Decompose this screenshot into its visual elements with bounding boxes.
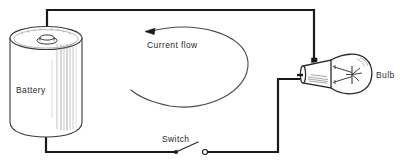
wire-group	[46, 10, 314, 152]
bulb-component	[297, 54, 372, 94]
battery-label: Battery	[16, 85, 46, 95]
battery-terminal-cap	[40, 35, 54, 40]
wire-battery-to-bulb-top	[47, 10, 314, 58]
bulb-top-contact-tab	[312, 58, 318, 63]
wire-switch-to-bulb-base	[205, 79, 300, 152]
switch-right-contact	[203, 150, 208, 155]
circuit-diagram: Switch	[0, 0, 400, 165]
current-flow-label: Current flow	[147, 40, 198, 50]
switch-label: Switch	[162, 134, 189, 144]
current-flow-arrowhead	[145, 28, 155, 34]
battery-component	[10, 27, 82, 138]
bulb-glass-envelope	[328, 54, 372, 94]
bulb-label: Bulb	[376, 70, 395, 80]
bulb-metal-base	[303, 60, 331, 88]
circuit-svg-canvas: Switch	[0, 0, 400, 165]
